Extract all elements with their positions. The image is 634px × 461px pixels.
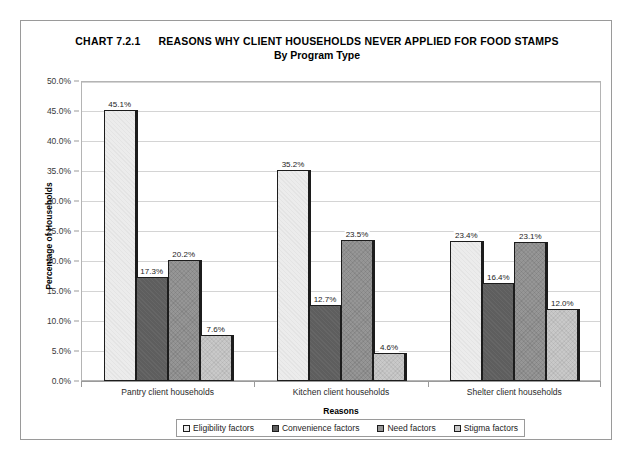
legend-item[interactable]: Eligibility factors xyxy=(183,423,254,433)
gridlines xyxy=(82,82,600,380)
gridline xyxy=(82,201,600,202)
legend-item[interactable]: Stigma factors xyxy=(454,423,518,433)
legend-swatch xyxy=(377,425,384,432)
y-axis-tick-label: 10.0% xyxy=(47,316,71,326)
legend-item[interactable]: Need factors xyxy=(377,423,435,433)
chart-frame: CHART 7.2.1REASONS WHY CLIENT HOUSEHOLDS… xyxy=(20,20,612,440)
y-axis-title: Percentage of Households xyxy=(44,156,54,316)
y-axis-tick-mark xyxy=(74,291,79,292)
y-axis-tick-label: 50.0% xyxy=(47,76,71,86)
x-axis: Pantry client householdsKitchen client h… xyxy=(81,387,601,403)
chart-number: CHART 7.2.1 xyxy=(75,35,140,47)
gridline xyxy=(82,351,600,352)
gridline xyxy=(82,381,600,382)
legend-label: Stigma factors xyxy=(464,423,518,433)
gridline xyxy=(82,231,600,232)
x-axis-category-label: Shelter client households xyxy=(467,387,562,397)
legend-item[interactable]: Convenience factors xyxy=(272,423,360,433)
x-axis-tick-mark xyxy=(254,381,255,387)
chart-title: CHART 7.2.1REASONS WHY CLIENT HOUSEHOLDS… xyxy=(21,35,613,47)
gridline xyxy=(82,321,600,322)
x-axis-tick-mark xyxy=(81,381,82,387)
y-axis-tick-mark xyxy=(74,381,79,382)
y-axis-tick-mark xyxy=(74,261,79,262)
y-axis-tick-label: 5.0% xyxy=(52,346,71,356)
y-axis-tick-mark xyxy=(74,201,79,202)
x-axis-tick-mark xyxy=(600,381,601,387)
y-axis-tick-label: 40.0% xyxy=(47,136,71,146)
legend-label: Need factors xyxy=(387,423,435,433)
x-axis-category-label: Pantry client households xyxy=(121,387,214,397)
gridline xyxy=(82,141,600,142)
gridline xyxy=(82,171,600,172)
gridline xyxy=(82,291,600,292)
x-axis-tick-mark xyxy=(428,381,429,387)
y-axis-tick-mark xyxy=(74,321,79,322)
y-axis-tick-mark xyxy=(74,351,79,352)
legend-label: Eligibility factors xyxy=(193,423,254,433)
legend-swatch xyxy=(272,425,279,432)
y-axis-tick-label: 0.0% xyxy=(52,376,71,386)
legend-swatch xyxy=(183,425,190,432)
chart-title-text: REASONS WHY CLIENT HOUSEHOLDS NEVER APPL… xyxy=(159,35,559,47)
y-axis-tick-mark xyxy=(74,111,79,112)
y-axis-tick-mark xyxy=(74,231,79,232)
gridline xyxy=(82,82,600,83)
y-axis-tick-mark xyxy=(74,141,79,142)
chart-subtitle: By Program Type xyxy=(21,49,613,61)
chart-legend: Eligibility factorsConvenience factorsNe… xyxy=(176,419,525,437)
legend-swatch xyxy=(454,425,461,432)
plot-area xyxy=(81,81,601,381)
x-axis-category-label: Kitchen client households xyxy=(293,387,389,397)
gridline xyxy=(82,261,600,262)
y-axis-tick-label: 45.0% xyxy=(47,106,71,116)
legend-label: Convenience factors xyxy=(282,423,360,433)
chart-title-block: CHART 7.2.1REASONS WHY CLIENT HOUSEHOLDS… xyxy=(21,35,613,61)
x-axis-title: Reasons xyxy=(81,406,601,416)
y-axis-tick-mark xyxy=(74,81,79,82)
gridline xyxy=(82,111,600,112)
y-axis-tick-mark xyxy=(74,171,79,172)
